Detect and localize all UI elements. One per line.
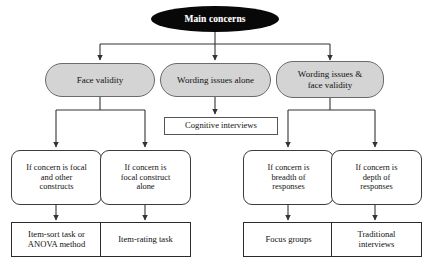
node-condition-breadth[interactable]: If concern is breadth of responses — [243, 150, 334, 205]
node-condition-focal-alone-label: If concern is focal construct alone — [118, 163, 174, 191]
node-outcome-item-sort-anova[interactable]: Item-sort task or ANOVA method — [11, 222, 102, 257]
node-wording-issues-alone-label: Wording issues alone — [174, 75, 257, 85]
node-outcome-item-rating-label: Item-rating task — [115, 235, 176, 245]
node-cognitive-interviews[interactable]: Cognitive interviews — [164, 117, 278, 135]
node-wording-and-face-validity[interactable]: Wording issues & face validity — [276, 61, 384, 98]
node-wording-and-face-validity-label: Wording issues & face validity — [295, 69, 365, 89]
node-main-concerns[interactable]: Main concerns — [151, 6, 279, 32]
node-outcome-focus-groups[interactable]: Focus groups — [243, 222, 334, 257]
node-outcome-item-rating[interactable]: Item-rating task — [100, 222, 191, 257]
node-outcome-item-sort-anova-label: Item-sort task or ANOVA method — [25, 230, 88, 249]
node-cognitive-interviews-label: Cognitive interviews — [182, 121, 260, 131]
node-condition-breadth-label: If concern is breadth of responses — [265, 163, 313, 191]
node-condition-depth[interactable]: If concern is depth of responses — [331, 150, 422, 205]
node-condition-focal-and-other-label: If concern is focal and other constructs — [23, 163, 90, 191]
flowchart-canvas: Main concerns Face validity Wording issu… — [0, 0, 430, 272]
node-face-validity-label: Face validity — [74, 75, 127, 85]
node-condition-depth-label: If concern is depth of responses — [353, 163, 401, 191]
node-outcome-focus-groups-label: Focus groups — [262, 235, 314, 245]
node-outcome-traditional-interviews-label: Traditional interviews — [355, 230, 399, 249]
node-outcome-traditional-interviews[interactable]: Traditional interviews — [331, 222, 422, 257]
node-main-concerns-label: Main concerns — [181, 14, 248, 25]
node-wording-issues-alone[interactable]: Wording issues alone — [160, 63, 271, 97]
node-condition-focal-and-other[interactable]: If concern is focal and other constructs — [11, 150, 102, 205]
node-condition-focal-alone[interactable]: If concern is focal construct alone — [100, 150, 191, 205]
node-face-validity[interactable]: Face validity — [45, 63, 155, 97]
